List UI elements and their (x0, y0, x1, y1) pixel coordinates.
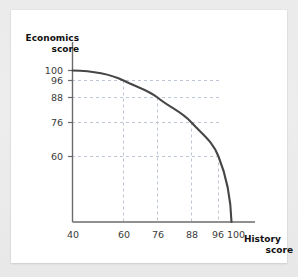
y-tick-label-76: 76 (29, 117, 63, 128)
x-tick-label-100: 100 (222, 229, 250, 240)
y-axis-title: Economics score (17, 33, 79, 55)
x-tick-label-88: 88 (181, 229, 203, 240)
production-possibility-frontier-chart: Economics score History score 100 96 88 … (11, 10, 287, 263)
vertical-gridlines (124, 81, 219, 223)
x-axis-title: History score (244, 234, 298, 256)
x-tick-label-76: 76 (147, 229, 169, 240)
x-tick-label-60: 60 (113, 229, 135, 240)
y-tick-label-96: 96 (29, 75, 63, 86)
horizontal-gridlines (72, 81, 219, 157)
y-axis-title-line2: score (17, 44, 79, 55)
figure-card: Economics score History score 100 96 88 … (11, 10, 287, 263)
screenshot-root: Economics score History score 100 96 88 … (0, 0, 298, 277)
x-tick-label-40: 40 (62, 229, 84, 240)
frontier-curve (73, 71, 232, 223)
x-axis-title-line1: History (244, 234, 298, 245)
y-axis-title-line1: Economics (17, 33, 79, 44)
y-tick-label-60: 60 (29, 151, 63, 162)
y-tick-label-88: 88 (29, 92, 63, 103)
x-axis-title-line2: score (244, 245, 293, 256)
